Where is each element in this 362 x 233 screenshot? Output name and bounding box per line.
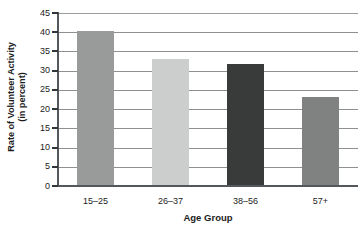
x-axis-tick-label: 38–56 bbox=[206, 196, 286, 206]
y-axis-tick-label: 20 bbox=[28, 105, 50, 114]
y-axis-tick-label: 30 bbox=[28, 66, 50, 75]
y-axis-tick-mark bbox=[52, 108, 58, 110]
y-axis-tick-label: 5 bbox=[28, 162, 50, 171]
bar bbox=[227, 64, 264, 186]
y-axis-tick-label: 0 bbox=[28, 182, 50, 191]
y-axis-tick-label: 10 bbox=[28, 143, 50, 152]
plot-area bbox=[58, 13, 358, 186]
bar bbox=[152, 59, 189, 186]
y-axis-tick-mark bbox=[52, 89, 58, 91]
y-axis-title-line-1: Rate of Volunteer Activity bbox=[6, 42, 18, 151]
x-axis-title: Age Group bbox=[58, 212, 358, 223]
y-axis-line bbox=[57, 12, 59, 187]
y-axis-tick-label: 35 bbox=[28, 47, 50, 56]
x-axis-tick-label: 15–25 bbox=[56, 196, 136, 206]
bar bbox=[302, 97, 339, 186]
y-axis-tick-mark bbox=[52, 185, 58, 187]
y-axis-tick-labels: 051015202530354045 bbox=[24, 0, 50, 233]
x-axis-tick-label: 57+ bbox=[281, 196, 361, 206]
y-axis-tick-mark bbox=[52, 127, 58, 129]
y-axis-tick-mark bbox=[52, 12, 58, 14]
y-axis-tick-label: 15 bbox=[28, 124, 50, 133]
y-axis-tick-mark bbox=[52, 70, 58, 72]
y-axis-tick-mark bbox=[52, 31, 58, 33]
y-axis-tick-label: 40 bbox=[28, 28, 50, 37]
y-axis-tick-mark bbox=[52, 50, 58, 52]
gridline bbox=[58, 13, 358, 14]
y-axis-tick-label: 45 bbox=[28, 9, 50, 18]
x-axis-line bbox=[57, 185, 358, 187]
x-axis-tick-label: 26–37 bbox=[131, 196, 211, 206]
y-axis-tick-label: 25 bbox=[28, 85, 50, 94]
y-axis-tick-mark bbox=[52, 147, 58, 149]
bar bbox=[77, 31, 114, 186]
cropped-caption-artifact bbox=[0, 0, 362, 5]
x-axis-tick-labels: 15–2526–3738–5657+ bbox=[58, 196, 358, 210]
y-axis-tick-mark bbox=[52, 166, 58, 168]
bar-chart-figure: Rate of Volunteer Activity (in percent) … bbox=[0, 0, 362, 233]
